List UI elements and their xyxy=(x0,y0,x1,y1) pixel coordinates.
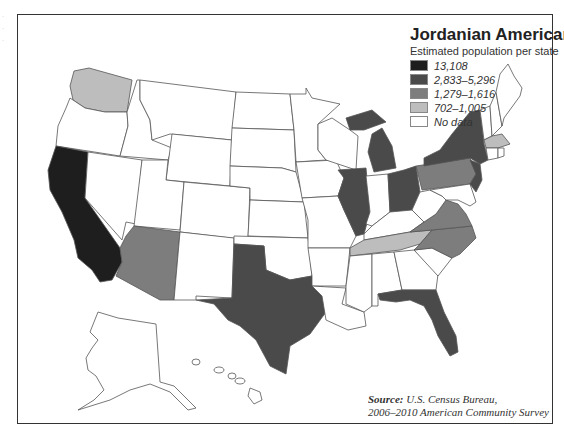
legend-item: 1,279–1,616 xyxy=(410,87,555,100)
legend-swatch xyxy=(410,74,428,85)
source-line2: 2006–2010 American Community Survey xyxy=(368,406,549,419)
legend-swatch xyxy=(410,88,428,99)
legend-title: Jordanian Americans xyxy=(410,26,555,44)
legend-subtitle: Estimated population per state xyxy=(410,45,555,58)
state-connecticut xyxy=(486,148,498,160)
state-alaska xyxy=(78,312,196,410)
source-note: Source: U.S. Census Bureau, 2006–2010 Am… xyxy=(368,393,549,419)
legend-label: 13,108 xyxy=(434,60,468,72)
legend-label: 2,833–5,296 xyxy=(434,74,495,86)
state-arizona xyxy=(116,226,180,300)
legend-label: No data xyxy=(434,116,473,128)
state-wyoming xyxy=(166,134,232,186)
state-florida xyxy=(378,290,458,356)
state-north-dakota xyxy=(232,92,294,130)
legend-item: No data xyxy=(410,115,555,128)
state-colorado xyxy=(180,182,250,240)
state-montana xyxy=(140,80,236,140)
legend-swatch xyxy=(410,60,428,71)
legend-item: 702–1,005 xyxy=(410,101,555,114)
legend-label: 702–1,005 xyxy=(434,102,486,114)
state-south-dakota xyxy=(230,128,296,172)
state-mississippi xyxy=(346,254,372,312)
state-kansas xyxy=(248,200,308,238)
legend-swatch xyxy=(410,102,428,113)
state-arkansas xyxy=(308,248,350,286)
state-rhode-island xyxy=(498,148,504,158)
state-new-mexico xyxy=(174,232,234,300)
state-hawaii xyxy=(192,359,262,404)
legend: Jordanian Americans Estimated population… xyxy=(410,26,555,128)
state-iowa xyxy=(296,160,344,198)
source-line1: U.S. Census Bureau, xyxy=(406,393,497,405)
legend-item: 13,108 xyxy=(410,59,555,72)
legend-item: 2,833–5,296 xyxy=(410,73,555,86)
legend-swatch xyxy=(410,116,428,127)
legend-label: 1,279–1,616 xyxy=(434,88,495,100)
source-prefix: Source: xyxy=(368,393,403,405)
